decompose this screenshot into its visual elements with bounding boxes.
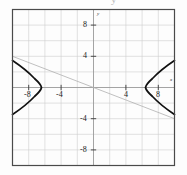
y-tick-label-neg-4: -4 [80, 115, 87, 123]
y-tick-label-4: 4 [83, 52, 87, 60]
x-axis-label: x [170, 77, 172, 82]
y-tick-label-neg-8: -8 [80, 146, 87, 154]
x-tick-label-4: 4 [124, 91, 128, 99]
top-cropped-glyph: y [111, 0, 117, 5]
hyperbola-graph-figure: y 8 4 -4 -8 -8 -4 4 8 y x [0, 0, 187, 175]
plot-canvas [0, 0, 187, 175]
x-tick-label-8: 8 [156, 91, 160, 99]
y-axis-label: y [97, 11, 99, 16]
y-tick-label-8: 8 [83, 21, 87, 29]
x-tick-label-neg-8: -8 [24, 91, 31, 99]
x-tick-label-neg-4: -4 [56, 91, 63, 99]
